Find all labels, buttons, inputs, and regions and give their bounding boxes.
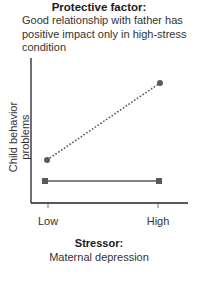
y-axis-label: Child behavior problems — [7, 80, 31, 195]
x-tick-label-high: High — [138, 215, 178, 227]
x-axis-label: Maternal depression — [0, 251, 198, 263]
square-marker-high — [156, 178, 162, 184]
square-marker-low — [42, 178, 48, 184]
circle-marker-high — [157, 80, 163, 86]
x-axis-title: Stressor: — [0, 237, 198, 249]
series-solid-squares — [42, 178, 162, 184]
x-tick-label-low: Low — [28, 215, 68, 227]
series-dotted-circles — [44, 80, 163, 163]
circle-marker-low — [44, 157, 50, 163]
